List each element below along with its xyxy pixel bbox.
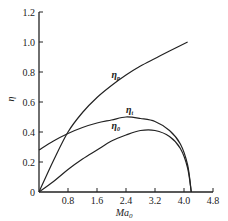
axes: 0.81.62.43.24.04.800.20.40.60.81.01.2Ma0… <box>5 7 219 221</box>
curves <box>39 42 191 192</box>
curve-label-eta-t: ηt <box>126 104 134 116</box>
y-tick-label: 0.4 <box>23 127 36 138</box>
y-tick-label: 0.6 <box>23 97 36 108</box>
x-tick-label: 4.8 <box>207 195 220 206</box>
x-axis-title: Ma0 <box>115 207 133 220</box>
x-tick-label: 3.2 <box>149 195 162 206</box>
labels: ηpηtη0 <box>112 69 134 132</box>
y-tick-label: 1.0 <box>23 37 36 48</box>
y-tick-label: 0.2 <box>23 157 36 168</box>
series-line-eta-p <box>39 42 188 192</box>
x-tick-label: 0.8 <box>62 195 75 206</box>
curve-label-eta-0: η0 <box>112 120 121 132</box>
y-tick-label: 1.2 <box>23 7 36 18</box>
x-tick-label: 4.0 <box>178 195 191 206</box>
x-tick-label: 1.6 <box>91 195 104 206</box>
y-axis-title: η <box>5 96 16 101</box>
curve-label-eta-p: ηp <box>112 69 121 81</box>
series-line-eta-0 <box>39 130 191 192</box>
y-tick-label: 0.8 <box>23 67 36 78</box>
efficiency-chart: 0.81.62.43.24.04.800.20.40.60.81.01.2Ma0… <box>0 0 228 221</box>
y-tick-label: 0 <box>30 187 35 198</box>
x-tick-label: 2.4 <box>120 195 133 206</box>
